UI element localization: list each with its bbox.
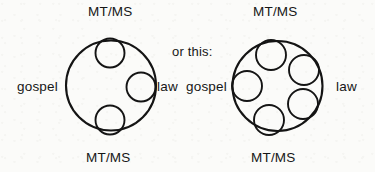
inner-circle-top	[96, 39, 125, 68]
left-diagram	[66, 39, 156, 135]
right-diagram-bottom-label: MT/MS	[251, 151, 296, 165]
inner-circle-left	[232, 71, 262, 101]
inner-circle-top	[256, 40, 286, 70]
inner-circle-upper-right	[289, 55, 319, 85]
right-diagram-top-label: MT/MS	[253, 5, 298, 19]
inner-circle-mid-right	[127, 73, 156, 102]
right-diagram-gospel-label: gospel	[186, 80, 227, 94]
inner-circle-lower-right	[288, 89, 318, 119]
outer-circle	[66, 41, 156, 131]
connector-text: or this:	[172, 45, 213, 58]
left-diagram-bottom-label: MT/MS	[86, 151, 131, 165]
left-diagram-gospel-label: gospel	[17, 80, 58, 94]
right-diagram-law-label: law	[336, 80, 357, 94]
left-diagram-law-label: law	[157, 80, 178, 94]
left-diagram-top-label: MT/MS	[88, 5, 133, 19]
right-diagram	[232, 40, 323, 135]
figure-canvas: MT/MS MT/MS gospel law or this: MT/MS MT…	[0, 0, 375, 172]
